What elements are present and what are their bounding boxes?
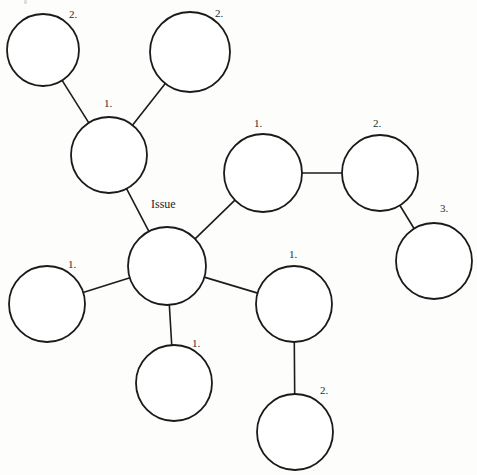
- node-circle-left-1[interactable]: [9, 266, 85, 342]
- node-circle-bottom-1[interactable]: [136, 345, 212, 421]
- mindmap-diagram: Issue1.2.2.1.2.3.1.2.1.1.: [0, 0, 477, 475]
- node-label-ul-leaf-b: 2.: [215, 7, 224, 19]
- node-circle-right-3[interactable]: [396, 223, 472, 299]
- node-label-left-1: 1.: [68, 258, 77, 270]
- node-label-br-2: 2.: [320, 384, 329, 396]
- edge-ul-hub-to-ul-leaf-a: [62, 80, 90, 124]
- node-circle-center[interactable]: [128, 227, 206, 305]
- node-circle-right-1[interactable]: [224, 134, 302, 212]
- nodes-layer: [7, 12, 472, 470]
- node-label-ul-leaf-a: 2.: [69, 8, 78, 20]
- node-label-right-2: 2.: [373, 117, 382, 129]
- edge-center-to-left-1: [82, 277, 131, 292]
- edge-right-2-to-right-3: [399, 205, 414, 230]
- node-circle-ul-leaf-b[interactable]: [150, 12, 230, 92]
- node-label-ul-hub: 1.: [104, 97, 113, 109]
- node-label-br-1: 1.: [289, 248, 298, 260]
- node-circle-ul-leaf-a[interactable]: [7, 14, 79, 86]
- node-circle-ul-hub[interactable]: [71, 117, 147, 193]
- edge-center-to-br-1: [203, 277, 258, 294]
- edge-center-to-right-1: [194, 199, 235, 239]
- edge-center-to-bottom-1: [169, 304, 172, 346]
- scan-artifact: [24, 0, 27, 4]
- mindmap-svg: Issue1.2.2.1.2.3.1.2.1.1.: [0, 0, 477, 475]
- node-circle-br-1[interactable]: [256, 266, 332, 342]
- node-label-center: Issue: [151, 197, 176, 211]
- node-circle-br-2[interactable]: [257, 394, 333, 470]
- node-label-right-3: 3.: [440, 202, 449, 214]
- edge-ul-hub-to-ul-leaf-b: [132, 83, 166, 126]
- node-label-bottom-1: 1.: [192, 337, 201, 349]
- node-circle-right-2[interactable]: [342, 135, 418, 211]
- node-label-right-1: 1.: [254, 117, 263, 129]
- edge-center-to-ul-hub: [126, 188, 149, 233]
